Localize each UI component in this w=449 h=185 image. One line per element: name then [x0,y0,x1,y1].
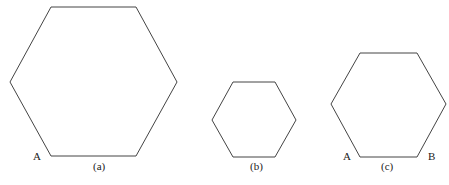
hexagon-c [331,53,446,157]
hexagon-figure: A (a) (b) A B (c) [0,0,449,185]
hexagon-a-group: A (a) [10,7,177,173]
hexagon-a [10,7,177,156]
vertex-label-c-A: A [343,150,351,162]
vertex-label-c-B: B [428,150,435,162]
hexagon-c-group: A B (c) [331,53,446,173]
hexagon-b-group: (b) [212,82,296,173]
caption-a: (a) [93,160,106,173]
caption-b: (b) [250,160,263,173]
caption-c: (c) [381,160,394,173]
vertex-label-a-A: A [33,150,41,162]
hexagon-b [212,82,296,157]
